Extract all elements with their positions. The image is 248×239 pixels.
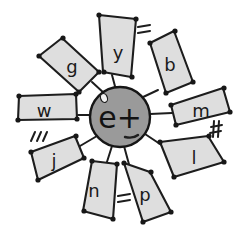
petal-n-corner-dot-1 [89, 158, 94, 163]
mark-triple-slash-stroke-1 [31, 132, 35, 141]
petal-j-shape [31, 136, 84, 180]
petal-g[interactable]: g [36, 35, 101, 94]
mark-triple-slash-stroke-3 [43, 132, 47, 141]
petal-y[interactable]: y [96, 12, 138, 79]
petal-b[interactable]: b [147, 28, 195, 95]
petal-j-label: j [50, 150, 56, 171]
petal-b-corner-dot-4 [163, 90, 168, 95]
mark-triple-slash-stroke-2 [37, 132, 41, 141]
petal-p-corner-dot-2 [148, 169, 153, 174]
petal-y-corner-dot-2 [133, 16, 138, 21]
petal-j-corner-dot-2 [73, 133, 78, 138]
mark-hash-right [210, 121, 222, 137]
mark-equals-bottom-stroke-1 [118, 194, 130, 196]
petal-b-corner-dot-2 [172, 28, 177, 33]
petal-l-corner-dot-4 [171, 174, 176, 179]
mark-equals-top [138, 25, 150, 33]
petal-l-corner-dot-3 [221, 159, 226, 164]
petal-l[interactable]: l [157, 133, 226, 179]
petal-n-corner-dot-4 [81, 208, 86, 213]
diagram-canvas: ybmlpnjwg e+ [0, 0, 248, 239]
petal-n-corner-dot-3 [110, 216, 115, 221]
petal-g-corner-dot-2 [60, 35, 65, 40]
petal-j-spoke [80, 136, 97, 146]
petal-b-corner-dot-1 [147, 40, 152, 45]
mark-triple-slash [31, 132, 47, 141]
petal-g-corner-dot-1 [36, 53, 41, 58]
petal-j-corner-dot-3 [81, 155, 86, 160]
petal-w[interactable]: w [15, 91, 79, 122]
petal-n-corner-dot-2 [114, 161, 119, 166]
petal-n-label: n [88, 180, 99, 201]
petal-w-corner-dot-4 [15, 117, 20, 122]
petal-m-spoke [150, 113, 172, 114]
petal-g-corner-dot-4 [76, 89, 81, 94]
petal-m-corner-dot-4 [173, 122, 178, 127]
petal-p-corner-dot-3 [168, 209, 173, 214]
mark-hash-right-stroke-4 [218, 121, 219, 137]
petal-y-corner-dot-4 [101, 69, 106, 74]
petal-g-label: g [66, 56, 77, 77]
petal-y-label: y [113, 42, 124, 63]
petal-p-corner-dot-1 [121, 160, 126, 165]
mark-equals-bottom [118, 194, 130, 202]
nucleus-group: e+ [90, 87, 150, 147]
mark-equals-top-stroke-2 [138, 31, 150, 33]
petal-y-corner-dot-3 [129, 74, 134, 79]
mark-hash-right-stroke-3 [213, 121, 214, 137]
petal-m-corner-dot-1 [168, 102, 173, 107]
petal-j-corner-dot-1 [28, 149, 33, 154]
radial-petal-diagram: ybmlpnjwg e+ [0, 0, 248, 239]
petal-w-corner-dot-3 [74, 116, 79, 121]
petal-b-label: b [164, 54, 175, 75]
petal-y-corner-dot-1 [96, 12, 101, 17]
petal-l-corner-dot-1 [157, 139, 162, 144]
petal-l-label: l [191, 147, 196, 168]
mark-equals-top-stroke-1 [138, 25, 150, 27]
petal-w-corner-dot-1 [16, 93, 21, 98]
mark-equals-bottom-stroke-2 [118, 200, 130, 202]
petal-j-corner-dot-4 [35, 177, 40, 182]
petal-p[interactable]: p [121, 160, 173, 224]
petal-m-label: m [192, 100, 210, 121]
petal-m-corner-dot-3 [227, 109, 232, 114]
petal-l-corner-dot-2 [206, 133, 211, 138]
petal-b-corner-dot-3 [190, 79, 195, 84]
petal-g-corner-dot-3 [96, 69, 101, 74]
petal-w-label: w [37, 100, 52, 121]
nucleus-label: e+ [98, 100, 142, 135]
petal-p-label: p [139, 184, 150, 205]
petal-m[interactable]: m [168, 85, 232, 127]
petal-m-corner-dot-2 [221, 85, 226, 90]
petal-p-corner-dot-4 [140, 219, 145, 224]
petal-n[interactable]: n [81, 158, 119, 221]
